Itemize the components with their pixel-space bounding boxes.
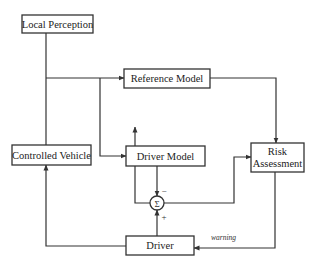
- driver-model-label: Driver Model: [137, 151, 195, 162]
- sigma-symbol: Σ: [154, 199, 159, 209]
- wire-feedback-to-sum: [135, 166, 150, 203]
- minus-sign: −: [161, 186, 166, 196]
- block-controlled-vehicle: Controlled Vehicle: [12, 145, 91, 165]
- risk-assessment-label-line2: Assessment: [253, 158, 303, 169]
- driver-label: Driver: [146, 240, 174, 251]
- block-driver: Driver: [126, 236, 194, 255]
- wire-to-driver-model: [100, 78, 126, 156]
- wire-reference-to-risk: [210, 78, 276, 143]
- reference-model-label: Reference Model: [131, 73, 204, 84]
- block-local-perception: Local Perception: [22, 15, 94, 33]
- wire-driver-to-vehicle: [46, 165, 126, 246]
- controlled-vehicle-label: Controlled Vehicle: [12, 150, 91, 161]
- plus-sign: +: [161, 212, 166, 222]
- risk-assessment-label-line1: Risk: [268, 146, 288, 157]
- block-driver-model: Driver Model: [126, 146, 205, 166]
- summation-node: Σ − +: [150, 186, 167, 222]
- local-perception-label: Local Perception: [22, 19, 94, 30]
- block-diagram: Local Perception Reference Model Control…: [0, 0, 315, 265]
- warning-label: warning: [211, 233, 236, 242]
- block-reference-model: Reference Model: [124, 69, 210, 88]
- block-risk-assessment: Risk Assessment: [251, 143, 304, 172]
